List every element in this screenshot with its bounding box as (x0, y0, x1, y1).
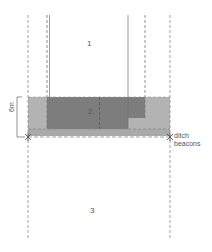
zone-2-dark-notch (128, 97, 145, 118)
zone-2-label: 2 (88, 108, 92, 116)
ditch-beacons-annotation: ditch beacons (174, 132, 200, 148)
annotation-line-1: ditch (174, 132, 200, 140)
diagram-canvas (0, 0, 212, 252)
dimension-label: 6m (8, 102, 15, 112)
ditch-strip (28, 129, 170, 136)
zone-3-label: 3 (90, 207, 94, 215)
zone-1-label: 1 (87, 40, 91, 48)
annotation-line-2: beacons (174, 140, 200, 148)
